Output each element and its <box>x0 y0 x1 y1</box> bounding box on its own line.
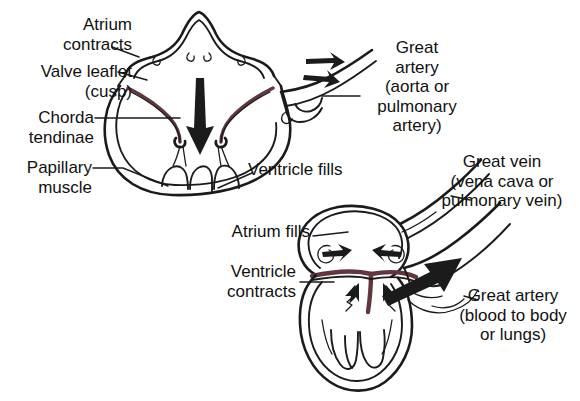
label-great-artery-top: Great artery (aorta or pulmonary artery) <box>358 38 476 136</box>
label-ventricle-fills: Ventricle fills <box>248 160 388 180</box>
label-ventricle-contracts: Ventricle contracts <box>172 262 296 301</box>
label-papillary-muscle: Papillary muscle <box>6 158 92 197</box>
label-great-artery-bottom: Great artery (blood to body or lungs) <box>446 286 580 345</box>
label-atrium-contracts: Atrium contracts <box>6 15 132 54</box>
closed-leaflet-left <box>312 272 371 276</box>
label-chorda-tendinae: Chorda tendinae <box>6 108 94 147</box>
label-valve-leaflet: Valve leaflet (cusp) <box>2 62 132 101</box>
leader-atrium-fills <box>313 232 348 236</box>
label-atrium-fills: Atrium fills <box>164 222 310 242</box>
heart-valve-diagram: Normal Heart Valve Function <box>0 0 580 401</box>
label-great-vein: Great vein (vena cava or pulmonary vein) <box>424 152 580 211</box>
blood-flow-arrow-down <box>186 78 214 155</box>
semilunar-valve-arrows <box>303 52 345 88</box>
